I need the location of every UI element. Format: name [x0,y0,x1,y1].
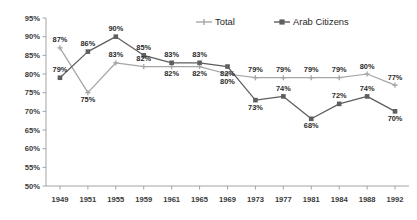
y-tick-label: 85% [25,51,40,60]
data-point-label: 68% [304,121,319,130]
data-point-label: 82% [164,69,179,78]
data-point-label: 79% [248,65,263,74]
chart-legend: TotalArab Citizens [196,16,349,27]
data-point-marker [309,75,314,80]
data-point-marker [197,61,202,66]
chart-axes [46,18,409,186]
data-labels-group: 87%75%83%82%82%82%80%79%79%79%79%80%77%7… [53,24,403,130]
x-tick-label: 1988 [359,195,376,204]
y-tick-label: 95% [25,14,40,23]
data-point-label: 86% [80,39,95,48]
data-point-label: 75% [80,95,95,104]
legend-swatch-marker [279,19,284,24]
data-point-label: 79% [53,65,68,74]
data-point-label: 79% [304,65,319,74]
x-tick-label: 1984 [331,195,349,204]
data-point-label: 82% [192,69,207,78]
legend-label: Arab Citizens [293,16,349,27]
y-tick-label: 55% [25,163,40,172]
x-axis-ticks: 1949195119551959196119651969197319771981… [52,186,404,204]
data-point-label: 83% [192,50,207,59]
data-point-marker [141,64,146,69]
data-point-label: 82% [220,69,235,78]
x-tick-label: 1961 [163,195,181,204]
y-tick-label: 65% [25,126,40,135]
x-tick-label: 1981 [303,195,321,204]
data-point-marker [169,61,174,66]
data-point-marker [281,75,286,80]
data-point-marker [337,75,342,80]
y-tick-label: 75% [25,88,40,97]
data-point-marker [392,83,397,88]
x-tick-label: 1977 [275,195,292,204]
voter-turnout-line-chart: 50%55%60%65%70%75%80%85%90%95% 194919511… [0,0,417,220]
data-point-label: 85% [136,43,151,52]
data-point-label: 72% [332,91,347,100]
x-tick-label: 1969 [219,195,236,204]
data-point-marker [365,94,370,99]
data-point-label: 74% [276,84,291,93]
y-tick-label: 70% [25,107,40,116]
x-tick-label: 1965 [191,195,209,204]
data-point-label: 77% [388,73,403,82]
legend-label: Total [215,16,235,27]
y-tick-label: 50% [25,182,40,191]
data-point-label: 87% [53,35,68,44]
data-point-marker [58,75,63,80]
x-tick-label: 1992 [387,195,404,204]
data-point-label: 73% [248,103,263,112]
y-tick-label: 60% [25,144,40,153]
chart-canvas: 50%55%60%65%70%75%80%85%90%95% 194919511… [0,0,417,220]
legend-item-arab-citizens[interactable]: Arab Citizens [274,16,349,27]
data-point-label: 90% [108,24,123,33]
data-point-marker [337,102,342,107]
data-point-label: 82% [136,54,151,63]
y-tick-label: 80% [25,70,40,79]
data-point-label: 79% [276,65,291,74]
data-point-marker [114,34,119,39]
data-point-label: 79% [332,65,347,74]
data-point-label: 74% [360,84,375,93]
x-tick-label: 1949 [52,195,69,204]
x-tick-label: 1955 [107,195,125,204]
data-point-label: 70% [388,114,403,123]
data-point-marker [86,49,91,54]
y-axis-ticks: 50%55%60%65%70%75%80%85%90%95% [25,14,46,191]
data-point-marker [253,75,258,80]
legend-item-total[interactable]: Total [196,16,235,27]
x-tick-label: 1973 [247,195,264,204]
x-tick-label: 1951 [79,195,97,204]
data-point-label: 83% [164,50,179,59]
data-point-marker [365,71,370,76]
data-point-marker [281,94,286,99]
y-tick-label: 90% [25,32,40,41]
data-point-label: 83% [108,50,123,59]
data-point-label: 80% [360,62,375,71]
x-tick-label: 1959 [135,195,152,204]
